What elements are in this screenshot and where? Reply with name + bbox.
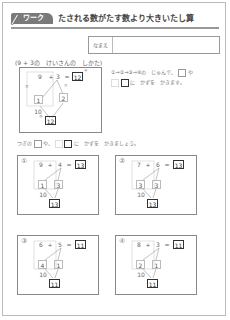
marker-4: ④: [84, 68, 88, 73]
ten-label: 10: [38, 190, 48, 199]
plus-sign: +: [47, 160, 53, 169]
equals-sign: =: [66, 240, 72, 249]
problem-3: ③ 6 + 5 = 11 4 1 10 11: [17, 235, 99, 295]
answer-box[interactable]: 13: [173, 160, 184, 169]
result-box[interactable]: 13: [49, 199, 60, 208]
badge-label: ワーク: [23, 14, 44, 22]
example-box: 9 + 3 = 12 ④ ① ② 1 2 10 ③ 12: [19, 67, 102, 133]
ten-label: 10: [136, 270, 146, 279]
example-addend-b: 3: [55, 72, 61, 81]
split-b-box[interactable]: 1: [54, 260, 63, 269]
addend-b: 4: [56, 160, 64, 169]
example-addend-a: 9: [36, 72, 44, 81]
plus-sign: +: [48, 72, 54, 81]
problem-prompt: つぎの や、 に かずを かきましょう。: [17, 139, 139, 148]
dark-box-icon: [121, 79, 129, 87]
example-answer-box: 12: [72, 72, 83, 81]
split-a-box[interactable]: 4: [38, 260, 47, 269]
addend-a: 6: [37, 240, 45, 249]
example-split-a: 1: [34, 95, 43, 104]
addend-b: 3: [154, 240, 162, 249]
result-box[interactable]: 11: [49, 279, 60, 288]
worksheet-title: たされる数がたす数より大きいたし算: [58, 13, 194, 24]
split-b-box[interactable]: 1: [152, 260, 161, 269]
ten-label: 10: [38, 270, 48, 279]
problem-number: ③: [21, 237, 27, 245]
addend-a: 9: [37, 160, 45, 169]
pencil-icon: [9, 12, 19, 25]
addend-b: 6: [154, 160, 162, 169]
result-box[interactable]: 11: [147, 279, 158, 288]
split-b-box[interactable]: 3: [152, 180, 161, 189]
addend-a: 7: [135, 160, 143, 169]
blank-box-icon: [34, 140, 42, 148]
problem-4: ④ 8 + 3 = 11 2 1 10 11: [115, 235, 197, 295]
marker-2: ②: [25, 84, 29, 89]
ten-label: 10: [136, 190, 146, 199]
work-badge: ワーク: [11, 13, 53, 24]
faint-box-icon: [111, 79, 119, 87]
example-result-box: 12: [45, 116, 56, 125]
equals-sign: =: [66, 160, 72, 169]
plus-sign: +: [145, 160, 151, 169]
split-a-box[interactable]: 3: [136, 180, 145, 189]
result-box[interactable]: 13: [147, 199, 158, 208]
example-instruction: ①→②→③→④の じゅんで、 や に かずを かきます。: [111, 67, 221, 87]
worksheet-header: ワーク たされる数がたす数より大きいたし算: [11, 13, 219, 29]
equals-sign: =: [164, 160, 170, 169]
example-split-b: 2: [59, 93, 68, 102]
problem-2: ② 7 + 6 = 13 3 3 10 13: [115, 155, 197, 215]
problem-number: ①: [21, 157, 27, 165]
blank-box-icon: [178, 69, 186, 77]
addend-b: 5: [56, 240, 64, 249]
plus-sign: +: [47, 240, 53, 249]
marker-3: ③: [39, 114, 43, 119]
worksheet-page: ワーク たされる数がたす数より大きいたし算 なまえ (9 + 3の けいさんの …: [2, 2, 226, 316]
answer-box[interactable]: 11: [173, 240, 184, 249]
name-label: なまえ: [89, 37, 113, 53]
split-a-box[interactable]: 2: [136, 260, 145, 269]
addend-a: 8: [135, 240, 143, 249]
equals-sign: =: [164, 240, 170, 249]
problem-number: ④: [119, 237, 125, 245]
name-field[interactable]: なまえ: [88, 36, 220, 54]
problem-1: ① 9 + 4 = 13 1 3 10 13: [17, 155, 99, 215]
problem-number: ②: [119, 157, 125, 165]
example-heading: (9 + 3の けいさんの しかた): [15, 58, 102, 67]
faint-box-icon: [55, 140, 63, 148]
split-a-box[interactable]: 1: [38, 180, 47, 189]
split-b-box[interactable]: 3: [54, 180, 63, 189]
dark-box-icon: [64, 140, 72, 148]
plus-sign: +: [145, 240, 151, 249]
answer-box[interactable]: 13: [75, 160, 86, 169]
equals-sign: =: [64, 72, 70, 81]
marker-1: ①: [64, 83, 68, 88]
answer-box[interactable]: 11: [75, 240, 86, 249]
